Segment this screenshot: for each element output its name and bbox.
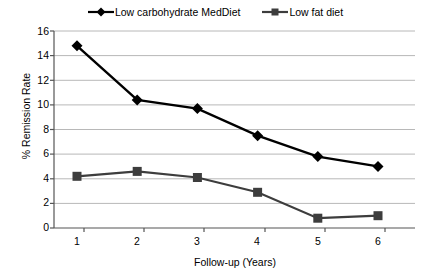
series-low-carbohydrate-meddiet bbox=[72, 40, 384, 172]
data-point-marker bbox=[312, 151, 323, 162]
x-tick-3: 3 bbox=[185, 236, 209, 247]
data-point-marker bbox=[193, 173, 202, 182]
data-point-marker bbox=[374, 211, 383, 220]
grid-lines bbox=[54, 31, 415, 203]
x-tick-6: 6 bbox=[366, 236, 390, 247]
series-low-fat-diet bbox=[73, 167, 383, 223]
data-point-marker bbox=[133, 167, 142, 176]
x-tick-2: 2 bbox=[125, 236, 149, 247]
data-point-marker bbox=[252, 130, 263, 141]
chart-container: Low carbohydrate MedDiet Low fat diet % … bbox=[0, 0, 431, 278]
x-tick-4: 4 bbox=[245, 236, 269, 247]
data-point-marker bbox=[313, 214, 322, 223]
x-tick-1: 1 bbox=[65, 236, 89, 247]
x-axis-ticks bbox=[84, 228, 385, 232]
data-point-marker bbox=[253, 188, 262, 197]
data-point-marker bbox=[73, 172, 82, 181]
x-tick-5: 5 bbox=[306, 236, 330, 247]
data-point-marker bbox=[373, 161, 384, 172]
x-axis-title: Follow-up (Years) bbox=[54, 256, 416, 268]
